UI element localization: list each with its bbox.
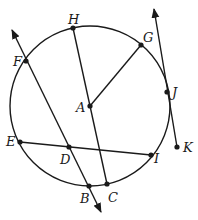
segment-AG (90, 45, 141, 106)
point-d-label: D (59, 152, 71, 167)
point-c-dot (104, 181, 109, 186)
point-f-label: F (12, 54, 23, 69)
point-d-dot (66, 144, 71, 149)
point-j-label: J (169, 85, 178, 100)
point-i-dot (148, 152, 153, 157)
point-k-label: K (182, 140, 194, 155)
point-j-dot (164, 89, 169, 94)
point-h-label: H (67, 12, 80, 27)
point-b-label: B (79, 191, 90, 206)
point-a-label: A (75, 100, 85, 115)
segment-EI (20, 142, 151, 155)
labels-layer: ABCDEFGHIJK (5, 12, 194, 206)
ray-KJ (154, 9, 177, 147)
point-k-dot (174, 144, 179, 149)
point-g-label: G (143, 30, 153, 45)
point-e-dot (17, 139, 22, 144)
point-e-label: E (5, 134, 16, 149)
point-f-dot (23, 58, 28, 63)
point-i-label: I (153, 151, 160, 166)
point-c-label: C (108, 190, 118, 205)
circle-geometry-diagram: ABCDEFGHIJK (0, 0, 198, 220)
point-a-dot (87, 103, 92, 108)
point-b-dot (86, 183, 91, 188)
